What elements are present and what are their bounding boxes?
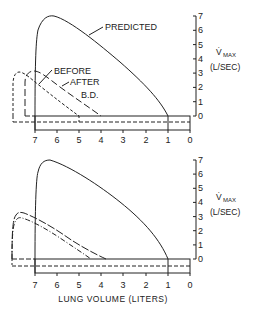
svg-text:6: 6 [198, 169, 203, 179]
predicted-label: PREDICTED [105, 22, 158, 32]
svg-text:6: 6 [198, 25, 203, 35]
svg-text:4: 4 [98, 135, 103, 145]
bd-label: B.D. [81, 90, 99, 100]
svg-text:7: 7 [32, 135, 37, 145]
svg-text:V̇: V̇ [216, 192, 222, 202]
top-y-tick-labels: 7 6 5 4 3 2 1 0 [198, 11, 203, 121]
svg-text:2: 2 [143, 135, 148, 145]
svg-text:(L/SEC): (L/SEC) [210, 207, 240, 217]
before-label: BEFORE [54, 66, 91, 76]
svg-text:7: 7 [198, 155, 203, 165]
svg-text:7: 7 [32, 280, 37, 290]
svg-text:4: 4 [198, 197, 203, 207]
after-leader [62, 82, 69, 86]
svg-text:0: 0 [198, 111, 203, 121]
bottom-before-curve [12, 218, 91, 259]
svg-text:6: 6 [54, 135, 59, 145]
svg-text:5: 5 [76, 280, 81, 290]
bottom-y-axis-title: V̇ MAX (L/SEC) [210, 192, 240, 217]
svg-text:0: 0 [187, 280, 192, 290]
svg-text:(L/SEC): (L/SEC) [210, 62, 240, 72]
svg-text:2: 2 [143, 280, 148, 290]
bottom-x-tick-labels: 7 6 5 4 3 2 1 0 [32, 280, 192, 290]
x-axis-title: LUNG VOLUME (LITERS) [58, 294, 168, 304]
flow-volume-figure: PREDICTED BEFORE AFTER B.D. 7 6 5 4 3 2 … [0, 0, 261, 314]
svg-text:7: 7 [198, 11, 203, 21]
svg-text:MAX: MAX [223, 197, 236, 203]
top-panel [13, 16, 196, 133]
bottom-predicted-curve [35, 160, 168, 259]
after-label: AFTER [70, 77, 100, 87]
svg-text:4: 4 [98, 280, 103, 290]
bottom-y-tick-labels: 7 6 5 4 3 2 1 0 [198, 155, 203, 264]
svg-text:1: 1 [165, 280, 170, 290]
svg-text:5: 5 [198, 183, 203, 193]
svg-text:1: 1 [198, 97, 203, 107]
svg-text:3: 3 [120, 280, 125, 290]
before-leader [39, 70, 52, 84]
svg-text:5: 5 [198, 40, 203, 50]
bottom-volume-box [35, 259, 190, 273]
svg-text:3: 3 [198, 212, 203, 222]
svg-text:3: 3 [120, 135, 125, 145]
svg-text:3: 3 [198, 68, 203, 78]
svg-text:0: 0 [187, 135, 192, 145]
svg-text:2: 2 [198, 82, 203, 92]
predicted-leader [89, 27, 103, 35]
top-x-tick-labels: 7 6 5 4 3 2 1 0 [32, 135, 192, 145]
svg-text:5: 5 [76, 135, 81, 145]
svg-text:V̇: V̇ [216, 47, 222, 57]
svg-text:MAX: MAX [223, 52, 236, 58]
bottom-panel [12, 160, 196, 276]
svg-text:1: 1 [165, 135, 170, 145]
svg-text:2: 2 [198, 226, 203, 236]
top-volume-box [35, 116, 190, 130]
svg-text:6: 6 [54, 280, 59, 290]
svg-text:1: 1 [198, 240, 203, 250]
top-y-axis-title: V̇ MAX (L/SEC) [210, 47, 240, 72]
svg-text:4: 4 [198, 54, 203, 64]
chart-canvas: PREDICTED BEFORE AFTER B.D. 7 6 5 4 3 2 … [0, 0, 261, 314]
svg-text:0: 0 [198, 254, 203, 264]
